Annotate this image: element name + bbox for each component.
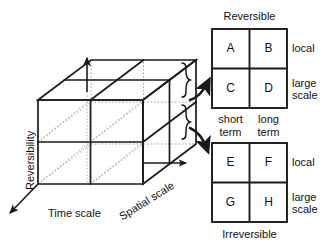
- column-label-short: short: [212, 113, 249, 125]
- matrix-reversible-title: Reversible: [212, 10, 287, 22]
- matrix-reversible-cell-b: B: [250, 42, 287, 54]
- matrix-irreversible-cell-f: F: [250, 156, 287, 168]
- matrix-irreversible-title: Irreversible: [205, 228, 294, 240]
- matrix-irreversible-cell-e: E: [212, 156, 249, 168]
- column-label-short-term: term: [212, 126, 249, 138]
- connector-arrow-upper: [190, 82, 208, 100]
- brace-upper: [182, 63, 190, 97]
- matrix-irreversible-grid: [212, 143, 287, 222]
- column-label-long-term: term: [250, 126, 287, 138]
- matrix-reversible-cell-a: A: [212, 42, 249, 54]
- matrix-reversible-cell-c: C: [212, 82, 249, 94]
- axis-time-scale: [10, 92, 87, 213]
- matrix-irreversible-row-label-scale: scale: [292, 203, 318, 215]
- figure-container: Reversibility Time scale Spatial scale R…: [0, 0, 332, 252]
- matrix-reversible-row-label-scale: scale: [292, 89, 318, 101]
- cube-solid-edges: [38, 60, 196, 184]
- matrix-irreversible-row-label-local: local: [292, 156, 315, 168]
- axis-label-time-scale: Time scale: [48, 207, 101, 219]
- matrix-reversible-cell-d: D: [250, 82, 287, 94]
- matrix-irreversible-cell-g: G: [212, 196, 249, 208]
- matrix-reversible-grid: [212, 29, 287, 108]
- matrix-irreversible-cell-h: H: [250, 196, 287, 208]
- matrix-irreversible-row-label-large: large: [292, 191, 316, 203]
- matrix-reversible-row-label-local: local: [292, 42, 315, 54]
- column-label-long: long: [250, 113, 287, 125]
- brace-lower: [182, 105, 190, 139]
- matrix-reversible-row-label-large: large: [292, 77, 316, 89]
- axis-label-reversibility: Reversibility: [24, 131, 36, 190]
